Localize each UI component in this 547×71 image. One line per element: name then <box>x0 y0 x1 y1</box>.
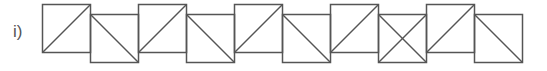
diagonal-line <box>475 15 523 63</box>
diagonal-line <box>139 5 187 53</box>
diagonal-line <box>283 15 331 63</box>
square-6 <box>283 15 331 63</box>
square-sequence-diagram <box>0 0 547 71</box>
diagonal-line <box>427 5 475 53</box>
diagonal-line <box>91 15 139 63</box>
square-3 <box>139 5 187 53</box>
diagonal-line <box>187 15 235 63</box>
square-4 <box>187 15 235 63</box>
diagonal-line <box>43 5 91 53</box>
square-7 <box>331 5 379 53</box>
diagonal-line <box>235 5 283 53</box>
square-5 <box>235 5 283 53</box>
square-2 <box>91 15 139 63</box>
square-1 <box>43 5 91 53</box>
square-9 <box>427 5 475 53</box>
diagonal-line <box>331 5 379 53</box>
square-10 <box>475 15 523 63</box>
square-8 <box>379 15 427 63</box>
